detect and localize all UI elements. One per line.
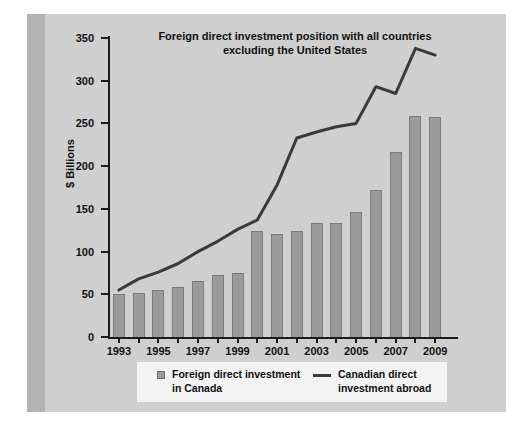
x-tick-label: 2007 — [383, 345, 407, 357]
y-tick-mark — [101, 336, 108, 338]
y-tick-mark — [101, 208, 108, 210]
y-tick-label: 50 — [0, 289, 94, 300]
y-tick-label: 200 — [0, 161, 94, 172]
x-tick-mark — [355, 337, 357, 343]
chart-figure: Foreign direct investment position with … — [0, 0, 529, 427]
x-tick-mark — [276, 337, 278, 343]
y-tick-mark — [101, 80, 108, 82]
x-tick-mark — [335, 337, 337, 343]
x-tick-label: 2005 — [344, 345, 368, 357]
y-tick-mark — [101, 165, 108, 167]
y-tick-label: 300 — [0, 75, 94, 86]
y-tick-mark — [101, 251, 108, 253]
x-tick-mark — [217, 337, 219, 343]
x-tick-mark — [256, 337, 258, 343]
x-tick-mark — [118, 337, 120, 343]
x-tick-label: 1993 — [107, 345, 131, 357]
x-tick-mark — [395, 337, 397, 343]
y-tick-mark — [101, 293, 108, 295]
legend-line-swatch-icon — [313, 374, 331, 377]
chart-legend: Foreign direct investment in Canada Cana… — [137, 362, 447, 402]
y-tick-label: 0 — [0, 332, 94, 343]
x-tick-label: 1999 — [225, 345, 249, 357]
x-tick-mark — [157, 337, 159, 343]
x-tick-mark — [296, 337, 298, 343]
x-tick-mark — [177, 337, 179, 343]
x-tick-mark — [138, 337, 140, 343]
x-tick-mark — [237, 337, 239, 343]
y-tick-label: 350 — [0, 33, 94, 44]
line-series — [108, 38, 456, 337]
y-tick-label: 100 — [0, 246, 94, 257]
x-tick-mark — [434, 337, 436, 343]
x-tick-label: 1995 — [146, 345, 170, 357]
x-tick-label: 1997 — [186, 345, 210, 357]
x-tick-mark — [316, 337, 318, 343]
x-tick-mark — [197, 337, 199, 343]
x-tick-mark — [375, 337, 377, 343]
y-tick-label: 250 — [0, 118, 94, 129]
x-tick-label: 2009 — [423, 345, 447, 357]
plot-area — [108, 38, 456, 337]
x-tick-label: 2003 — [304, 345, 328, 357]
legend-item-line: Canadian direct investment abroad — [313, 368, 431, 395]
y-tick-mark — [101, 122, 108, 124]
x-tick-mark — [414, 337, 416, 343]
y-tick-mark — [101, 37, 108, 39]
legend-item-bar: Foreign direct investment in Canada — [157, 368, 307, 395]
y-tick-label: 150 — [0, 203, 94, 214]
legend-bar-swatch-icon — [157, 371, 165, 379]
legend-line-label: Canadian direct investment abroad — [338, 368, 431, 395]
legend-bar-label: Foreign direct investment in Canada — [172, 368, 300, 395]
x-axis-line — [108, 337, 458, 339]
x-tick-label: 2001 — [265, 345, 289, 357]
